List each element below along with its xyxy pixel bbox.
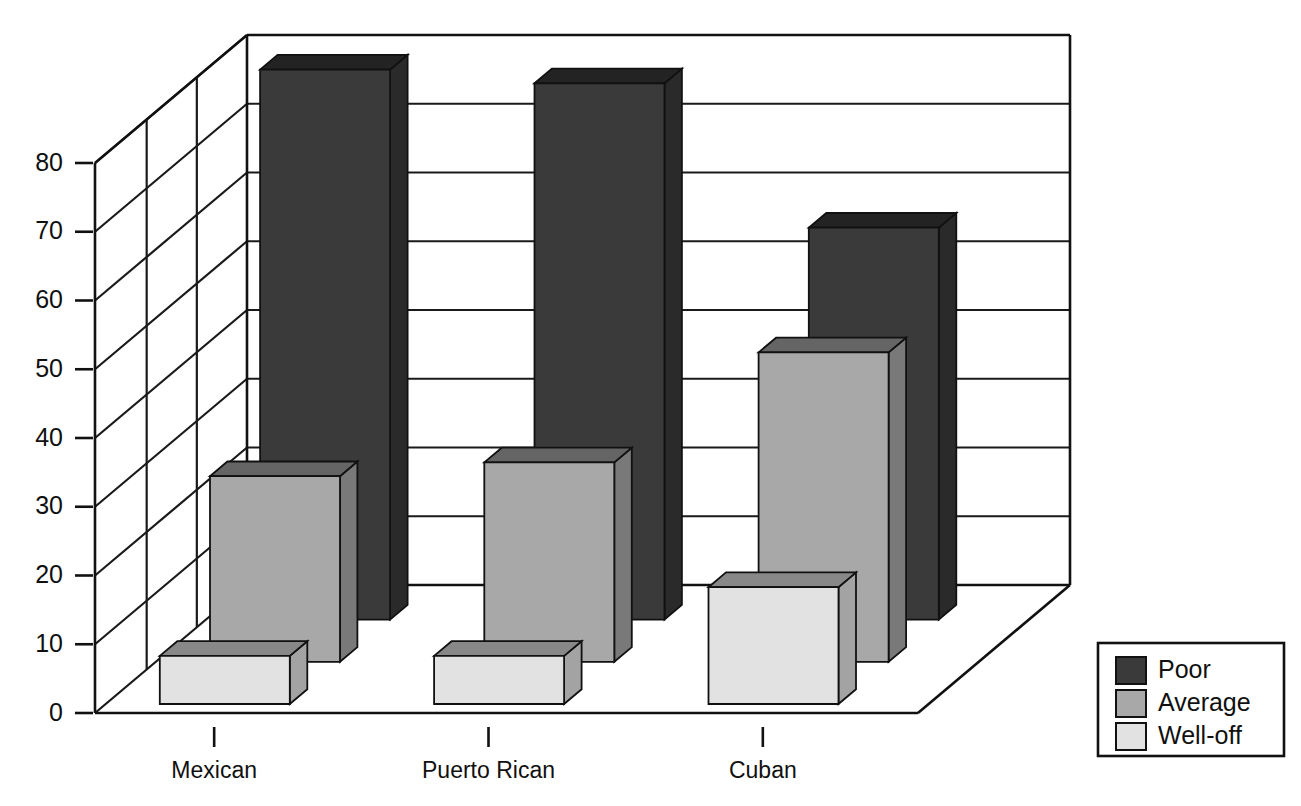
y-axis: 80706050403020100 [35,148,93,726]
chart-canvas: 80706050403020100 MexicanPuerto RicanCub… [0,0,1301,806]
bar-top-face [260,55,408,70]
bar-side-face [390,55,408,620]
legend-swatch [1116,723,1146,750]
x-tick-label: Mexican [171,757,257,783]
bar-top-face [809,213,957,228]
y-tick-label: 20 [35,560,63,588]
y-tick-label: 60 [35,285,63,313]
bar-top-face [535,69,682,84]
bar-puerto-rican-well-off [434,641,581,704]
legend-label: Well-off [1158,721,1242,749]
bar-chart-3d: 80706050403020100 MexicanPuerto RicanCub… [0,0,1301,806]
bar-top-face [160,641,307,656]
bar-puerto-rican-average [484,448,632,662]
bar-front-face [210,476,340,662]
bar-mexican-well-off [160,641,307,704]
bar-top-face [434,641,581,656]
bar-side-face [665,69,682,620]
legend-label: Poor [1158,655,1211,683]
legend-label: Average [1158,688,1251,716]
y-tick-label: 30 [35,491,63,519]
bar-side-face [889,338,907,662]
y-tick-label: 50 [35,354,63,382]
y-tick-label: 80 [35,148,63,176]
legend: PoorAverageWell-off [1098,643,1284,756]
x-tick-label: Cuban [729,757,797,783]
bar-top-face [709,572,857,587]
bar-top-face [759,338,907,353]
bar-side-face [939,213,957,620]
bar-front-face [484,462,614,661]
bar-front-face [160,656,290,704]
bar-side-face [839,572,857,704]
bar-top-face [210,462,357,477]
x-tick-label: Puerto Rican [422,757,555,783]
bar-front-face [434,656,564,704]
y-tick-label: 70 [35,216,63,244]
y-tick-label: 10 [35,629,63,657]
y-tick-label: 0 [49,698,63,726]
bar-front-face [709,587,839,704]
bar-top-face [484,448,632,463]
bar-side-face [340,462,357,662]
bar-side-face [614,448,632,662]
y-tick-label: 40 [35,423,63,451]
legend-swatch [1116,657,1146,684]
bar-mexican-average [210,462,357,662]
x-axis: MexicanPuerto RicanCuban [171,727,796,783]
bar-cuban-well-off [709,572,857,704]
legend-swatch [1116,690,1146,717]
